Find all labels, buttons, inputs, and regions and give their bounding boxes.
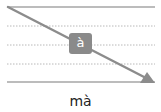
- pinyin-caption: mà: [0, 92, 161, 110]
- tone-letter-badge: à: [69, 33, 92, 54]
- arrow-head-icon: [140, 72, 155, 83]
